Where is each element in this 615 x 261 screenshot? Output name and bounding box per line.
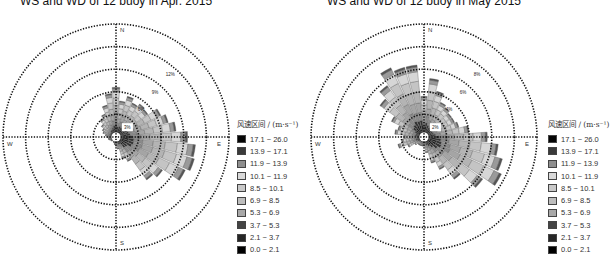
ring-label: 4% (446, 107, 453, 112)
legend-item: 8.5 ~ 10.1 (237, 182, 307, 194)
rose-sector-segment (114, 113, 118, 119)
ring-label: 12% (166, 72, 175, 77)
rose-sector-segment (452, 128, 459, 134)
wind-rose-april: 3%6%9%12%NESW (0, 0, 232, 261)
legend-item: 6.9 ~ 8.5 (548, 194, 615, 206)
legend-swatch (237, 160, 246, 168)
compass-label: W (315, 141, 321, 147)
legend-label: 3.7 ~ 5.3 (561, 221, 590, 230)
legend-label: 3.7 ~ 5.3 (250, 221, 279, 230)
legend-swatch (237, 172, 246, 180)
legend-label: 2.1 ~ 3.7 (561, 233, 590, 242)
legend-item: 17.1 ~ 26.0 (237, 133, 307, 145)
legend-swatch (237, 184, 246, 192)
legend-label: 5.3 ~ 6.9 (250, 208, 279, 217)
legend-item: 17.1 ~ 26.0 (548, 133, 615, 145)
legend-label: 8.5 ~ 10.1 (250, 184, 284, 193)
legend-swatch (548, 234, 557, 242)
rose-sector-segment (133, 135, 141, 139)
legend-swatch (548, 172, 557, 180)
rose-sector-segment (107, 103, 113, 110)
ring-label: 9% (152, 90, 159, 95)
legend-item: 11.9 ~ 13.9 (548, 158, 615, 170)
ring-label: 6% (138, 107, 145, 112)
legend-swatch (237, 135, 246, 143)
legend-label: 8.5 ~ 10.1 (561, 184, 595, 193)
legend-items: 17.1 ~ 26.013.9 ~ 17.111.9 ~ 13.910.1 ~ … (237, 133, 307, 256)
legend-item: 8.5 ~ 10.1 (548, 182, 615, 194)
compass-label: E (525, 141, 529, 147)
compass-label: W (7, 141, 13, 147)
compass-label: N (428, 27, 432, 33)
legend-item: 10.1 ~ 11.9 (548, 170, 615, 182)
legend-april: 风速区间 / (m·s⁻¹) 17.1 ~ 26.013.9 ~ 17.111.… (237, 118, 307, 256)
legend-label: 13.9 ~ 17.1 (561, 147, 599, 156)
rose-sector-segment (469, 142, 481, 152)
legend-item: 0.0 ~ 2.1 (548, 244, 615, 256)
legend-swatch (548, 197, 557, 205)
legend-swatch (548, 135, 557, 143)
rose-sector-segment (410, 81, 420, 93)
legend-label: 10.1 ~ 11.9 (561, 172, 598, 181)
legend-swatch (548, 147, 557, 155)
rose-sector-segment (141, 134, 150, 139)
legend-label: 17.1 ~ 26.0 (250, 135, 288, 144)
legend-swatch (237, 246, 246, 254)
legend-label: 5.3 ~ 6.9 (561, 208, 590, 217)
compass-label: S (120, 240, 124, 246)
legend-item: 6.9 ~ 8.5 (237, 194, 307, 206)
rose-sector-segment (408, 72, 419, 83)
legend-swatch (548, 246, 557, 254)
compass-label: E (217, 141, 221, 147)
legend-label: 11.9 ~ 13.9 (561, 159, 598, 168)
legend-item: 3.7 ~ 5.3 (548, 219, 615, 231)
legend-item: 5.3 ~ 6.9 (237, 207, 307, 219)
legend-label: 0.0 ~ 2.1 (561, 245, 590, 254)
compass-label: S (428, 240, 432, 246)
legend-item: 2.1 ~ 3.7 (237, 231, 307, 243)
wind-rose-may: 2%4%6%8%NESW (308, 0, 540, 261)
compass-label: N (120, 27, 124, 33)
ring-label: 6% (460, 90, 467, 95)
legend-title: 风速区间 / (m·s⁻¹) (237, 118, 307, 129)
legend-label: 11.9 ~ 13.9 (250, 159, 287, 168)
legend-label: 13.9 ~ 17.1 (250, 147, 288, 156)
rose-sector-segment (113, 98, 119, 105)
rose-sector-segment (480, 143, 491, 154)
legend-swatch (237, 221, 246, 229)
ring-label: 2% (432, 125, 439, 130)
panel-april: WS and WD of 12 buoy in Apr. 2015 3%6%9%… (0, 0, 300, 261)
legend-item: 3.7 ~ 5.3 (237, 219, 307, 231)
rose-sector-segment (164, 142, 177, 153)
legend-item: 13.9 ~ 17.1 (237, 145, 307, 157)
legend-label: 17.1 ~ 26.0 (561, 135, 599, 144)
legend-swatch (237, 147, 246, 155)
legend-label: 10.1 ~ 11.9 (250, 172, 287, 181)
legend-item: 11.9 ~ 13.9 (237, 158, 307, 170)
legend-may: 风速区间 / (m·s⁻¹) 17.1 ~ 26.013.9 ~ 17.111.… (548, 118, 615, 256)
legend-swatch (548, 160, 557, 168)
panel-may: WS and WD of 12 buoy in May 2015 2%4%6%8… (308, 0, 615, 261)
legend-item: 0.0 ~ 2.1 (237, 244, 307, 256)
rose-sector-segment (118, 109, 123, 115)
rose-sector-segment (161, 123, 170, 132)
legend-label: 6.9 ~ 8.5 (250, 196, 279, 205)
legend-label: 0.0 ~ 2.1 (250, 245, 279, 254)
legend-item: 13.9 ~ 17.1 (548, 145, 615, 157)
legend-label: 6.9 ~ 8.5 (561, 196, 590, 205)
legend-label: 2.1 ~ 3.7 (250, 233, 279, 242)
legend-swatch (237, 197, 246, 205)
legend-title: 风速区间 / (m·s⁻¹) (548, 118, 615, 129)
legend-swatch (548, 184, 557, 192)
legend-swatch (548, 209, 557, 217)
legend-items: 17.1 ~ 26.013.9 ~ 17.111.9 ~ 13.910.1 ~ … (548, 133, 615, 256)
ring-label: 3% (124, 125, 131, 130)
legend-item: 2.1 ~ 3.7 (548, 231, 615, 243)
legend-swatch (548, 221, 557, 229)
ring-label: 8% (474, 72, 481, 77)
legend-item: 5.3 ~ 6.9 (548, 207, 615, 219)
rose-sector-segment (153, 125, 163, 133)
legend-item: 10.1 ~ 11.9 (237, 170, 307, 182)
legend-swatch (237, 234, 246, 242)
rose-sector-segment (176, 143, 188, 155)
